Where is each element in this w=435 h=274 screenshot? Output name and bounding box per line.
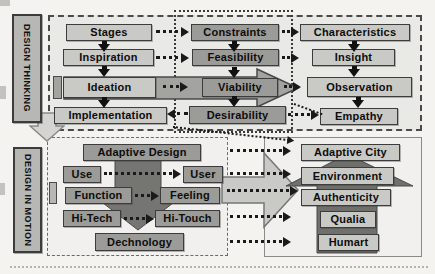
dotted-arrow-to-authenticity (227, 189, 295, 192)
dotted-arrow-to-adaptive-city (230, 149, 288, 152)
down-arrow-icon (348, 44, 360, 52)
adaptive-city-box: Adaptive City (301, 144, 400, 161)
dotted-arrow-hitech-hitouch (124, 217, 151, 220)
observation-box: Observation (307, 77, 412, 97)
down-arrow-icon (228, 99, 240, 107)
dotted-arrow-to-environment (230, 172, 288, 175)
arrow-tail-bar (49, 182, 57, 204)
dotted-arrow-function-feeling (135, 194, 156, 197)
scan-dotted-line (10, 266, 428, 268)
down-arrow-icon (352, 100, 364, 108)
down-arrow-icon (348, 69, 360, 77)
dotted-arrow-use-user (104, 172, 178, 175)
hi-tech-box: Hi-Tech (63, 210, 121, 227)
humart-box: Humart (318, 234, 379, 251)
constraints-box: Constraints (191, 24, 279, 41)
dotted-arrow-constraints-characteristics (282, 30, 296, 33)
scan-speck (0, 86, 6, 99)
dotted-arrow-stages-constraints (156, 30, 186, 33)
down-arrow-icon (98, 44, 110, 52)
dotted-arrow-viability-observation (284, 85, 298, 88)
scan-speck (0, 183, 5, 195)
dotted-arrow-inspiration-feasibility (156, 56, 186, 59)
desirability-box: Desirability (189, 106, 286, 124)
down-arrow-icon (228, 44, 240, 52)
user-box: User (183, 166, 223, 183)
design-in-motion-vertical-label: DESIGN IN MOTION (13, 147, 42, 253)
down-arrow-icon (98, 100, 110, 108)
down-arrow-icon (98, 69, 110, 77)
qualia-box: Qualia (320, 211, 376, 228)
adaptive-design-box: Adaptive Design (83, 144, 201, 161)
down-arrow-icon (228, 70, 240, 78)
dechnology-box: Dechnology (95, 233, 184, 251)
environment-box: Environment (301, 167, 394, 185)
dotted-arrow-desirability-empathy (288, 113, 316, 116)
scan-speck (0, 0, 10, 6)
dotted-arrow-ideation-viability (163, 85, 185, 88)
dotted-arrow-to-qualia (230, 215, 288, 218)
implementation-box: Implementation (54, 107, 167, 124)
function-box: Function (65, 187, 132, 204)
viability-box: Viability (202, 78, 278, 97)
authenticity-box: Authenticity (301, 189, 391, 206)
use-box: Use (63, 166, 101, 183)
stages-box: Stages (66, 24, 152, 41)
characteristics-box: Characteristics (300, 24, 410, 41)
empathy-box: Empathy (320, 108, 398, 125)
dotted-arrow-feasibility-insight (282, 56, 296, 59)
design-thinking-motion-diagram: DESIGN THINKING DESIGN IN MOTION Stages … (0, 0, 435, 274)
ideation-box: Ideation (63, 77, 156, 98)
dotted-arrow-desirability-implementation (170, 112, 188, 115)
hi-touch-box: Hi-Touch (155, 210, 220, 227)
dotted-arrow-to-humart (230, 240, 288, 243)
design-thinking-vertical-label: DESIGN THINKING (12, 14, 42, 123)
feeling-box: Feeling (160, 187, 220, 204)
